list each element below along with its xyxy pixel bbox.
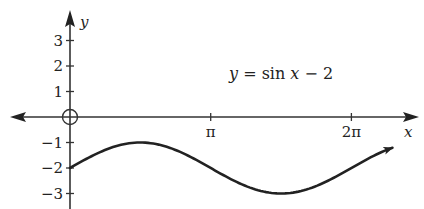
x-tick-label: π [206,123,216,141]
y-axis-label: y [79,13,89,31]
x-tick-label: 2π [342,123,362,141]
y-tick-label: 2 [53,57,63,75]
y-tick-label: −3 [41,185,63,203]
y-tick-label: −2 [41,159,63,177]
y-tick-label: 3 [53,32,63,50]
x-axis-label: x [404,123,413,141]
sine-graph: π2π 321−1−2−3 y x y = sin x − 2 [0,0,424,209]
y-tick-label: 1 [53,83,63,101]
y-tick-label: −1 [41,134,63,152]
equation-label: y = sin x − 2 [228,64,333,83]
sine-curve [70,143,392,194]
